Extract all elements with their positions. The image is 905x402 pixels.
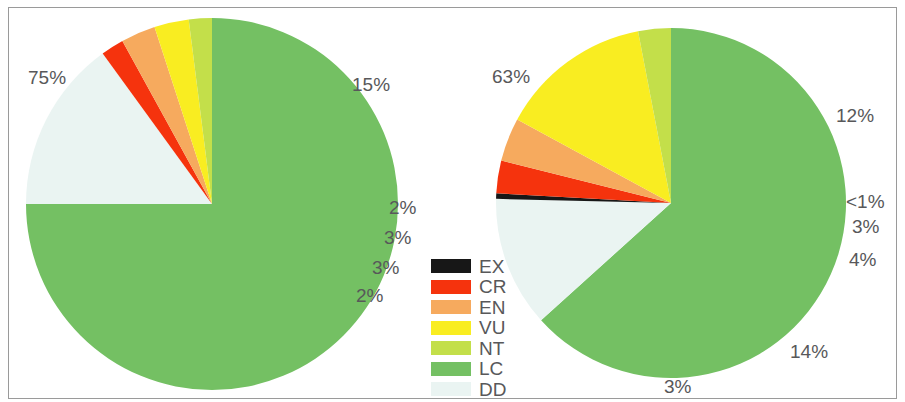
legend-swatch-dd [431,382,471,396]
legend-label-nt: NT [479,339,504,358]
right-label-nt: 3% [664,376,691,398]
legend-label-en: EN [479,298,505,317]
left-label-nt: 2% [356,285,383,307]
left-label-cr: 2% [389,197,416,219]
right-label-cr: 3% [852,216,879,238]
right-label-ex: <1% [846,191,885,213]
legend-swatch-ex [431,259,471,273]
left-pie-svg [0,0,450,402]
right-label-vu: 14% [790,341,828,363]
legend-item-nt: NT [431,338,529,359]
legend-swatch-en [431,300,471,314]
legend-label-dd: DD [479,380,506,399]
legend-label-cr: CR [479,277,506,296]
legend-swatch-lc [431,362,471,376]
legend-label-ex: EX [479,257,504,276]
legend: EXCRENVUNTLCDD [431,256,529,402]
legend-swatch-cr [431,280,471,294]
left-label-dd: 15% [352,74,390,96]
left-pie-chart: 75% 15% 2% 3% 3% 2% [0,0,450,402]
legend-item-en: EN [431,297,529,318]
legend-item-cr: CR [431,277,529,298]
right-label-dd: 12% [836,105,874,127]
left-label-vu: 3% [372,257,399,279]
legend-label-vu: VU [479,318,505,337]
right-label-en: 4% [849,249,876,271]
legend-item-vu: VU [431,318,529,339]
legend-label-lc: LC [479,359,503,378]
right-pie-slices [496,28,846,378]
legend-swatch-vu [431,321,471,335]
right-label-lc: 63% [492,66,530,88]
left-label-lc: 75% [28,67,66,89]
legend-item-dd: DD [431,379,529,400]
figure-root: 75% 15% 2% 3% 3% 2% 63% 12% <1% 3% 4% 14… [0,0,905,402]
legend-item-lc: LC [431,359,529,380]
left-label-en: 3% [384,227,411,249]
legend-item-ex: EX [431,256,529,277]
left-pie-slices [26,18,398,390]
legend-swatch-nt [431,341,471,355]
